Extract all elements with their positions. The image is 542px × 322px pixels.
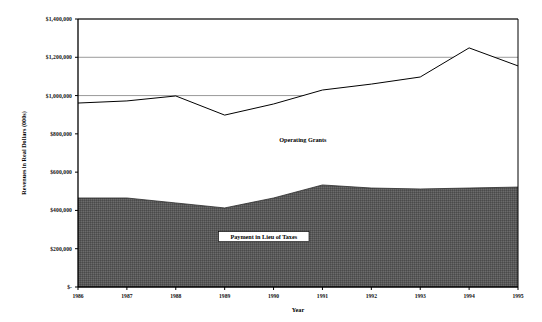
x-tick-label: 1995 xyxy=(512,293,523,299)
x-axis-title: Year xyxy=(292,306,305,313)
y-tick-label: $800,000 xyxy=(50,131,72,137)
x-tick-label: 1987 xyxy=(121,293,132,299)
y-tick-label: $- xyxy=(67,284,72,290)
y-axis-title: Revenues in Real Dollars (000s) xyxy=(20,111,28,195)
operating-grants-label: Operating Grants xyxy=(279,136,327,143)
y-tick-label: $200,000 xyxy=(50,246,72,252)
y-tick-label: $1,000,000 xyxy=(46,93,72,99)
x-tick-label: 1986 xyxy=(72,293,83,299)
x-tick-label: 1994 xyxy=(464,293,475,299)
x-tick-label: 1991 xyxy=(317,293,328,299)
x-tick-label: 1993 xyxy=(415,293,426,299)
x-tick-label: 1990 xyxy=(268,293,279,299)
revenue-area-chart: $1,400,000$1,200,000$1,000,000$800,000$6… xyxy=(0,0,542,322)
y-tick-label: $1,400,000 xyxy=(46,16,72,22)
y-tick-label: $400,000 xyxy=(50,207,72,213)
payment-in-lieu-label: Payment in Lieu of Taxes xyxy=(230,233,297,240)
x-tick-label: 1988 xyxy=(170,293,181,299)
area-operating-grants xyxy=(78,48,518,208)
y-tick-label: $600,000 xyxy=(50,169,72,175)
chart-canvas: $1,400,000$1,200,000$1,000,000$800,000$6… xyxy=(0,0,542,322)
y-tick-label: $1,200,000 xyxy=(46,54,72,60)
x-tick-label: 1989 xyxy=(219,293,230,299)
x-tick-label: 1992 xyxy=(366,293,377,299)
